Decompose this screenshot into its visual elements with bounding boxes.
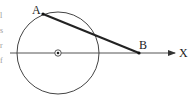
label-a: A — [32, 3, 41, 17]
center-marker-icon — [55, 50, 61, 56]
geometry-diagram: A B X — [0, 0, 195, 101]
point-a — [41, 12, 44, 15]
label-b: B — [139, 38, 147, 52]
segment-ab — [43, 14, 139, 53]
label-x: X — [179, 46, 188, 60]
